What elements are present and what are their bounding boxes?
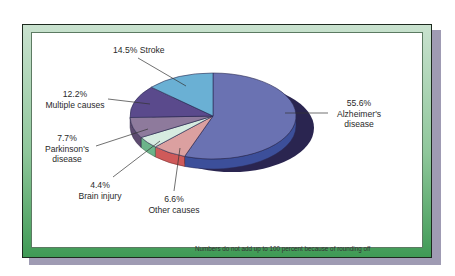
label-multiple-name: Multiple causes [39, 100, 111, 111]
label-parkinsons-pct: 7.7% [38, 133, 96, 144]
label-parkinsons-line2: disease [38, 154, 96, 165]
label-brain-pct: 4.4% [72, 180, 128, 191]
footnote: Numbers do not add up to 100 percent bec… [195, 245, 370, 252]
leader-brain-injury [113, 141, 160, 177]
label-stroke-pct: 14.5% [113, 45, 137, 55]
label-multiple-pct: 12.2% [39, 89, 111, 100]
label-parkinsons: 7.7% Parkinson's disease [38, 133, 96, 165]
label-parkinsons-line1: Parkinson's [38, 144, 96, 155]
label-brain-name: Brain injury [72, 191, 128, 202]
label-other-causes: 6.6% Other causes [142, 194, 206, 215]
label-brain-injury: 4.4% Brain injury [72, 180, 128, 201]
label-other-name: Other causes [142, 205, 206, 216]
label-stroke-name: Stroke [140, 45, 165, 55]
label-other-pct: 6.6% [142, 194, 206, 205]
label-multiple-causes: 12.2% Multiple causes [39, 89, 111, 110]
label-alzheimers-line1: Alzheimer's [329, 109, 389, 120]
label-alzheimers: 55.6% Alzheimer's disease [329, 98, 389, 130]
label-stroke: 14.5% Stroke [113, 45, 165, 56]
label-alzheimers-pct: 55.6% [329, 98, 389, 109]
label-alzheimers-line2: disease [329, 119, 389, 130]
